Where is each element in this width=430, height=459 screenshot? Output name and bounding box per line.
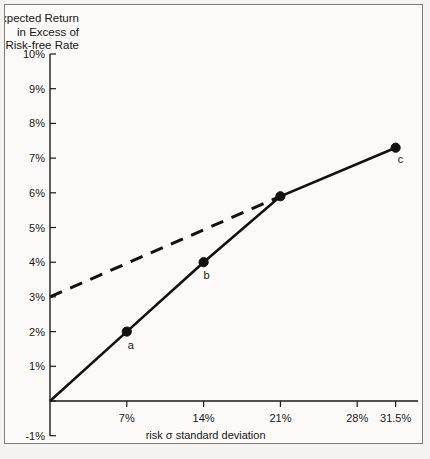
x-axis-tick-label: 21% bbox=[269, 412, 291, 424]
x-axis-tick-label: 14% bbox=[193, 412, 215, 424]
data-point-marker bbox=[122, 327, 131, 336]
y-axis-tick-label: 8% bbox=[29, 117, 45, 129]
data-series bbox=[50, 148, 396, 401]
data-point-label: c bbox=[398, 153, 404, 165]
chart-title-line: in Excess of bbox=[17, 26, 80, 38]
figure-root: Expected Returnin Excess ofRisk-free Rat… bbox=[0, 0, 430, 459]
y-axis-tick-label: 7% bbox=[29, 152, 45, 164]
x-axis: 7%14%21%28%31.5% bbox=[50, 401, 418, 424]
x-axis-title: risk σ standard deviation bbox=[146, 429, 266, 441]
x-axis-tick-label: 7% bbox=[119, 412, 135, 424]
y-axis-tick-label: 6% bbox=[29, 187, 45, 199]
chart-canvas: Expected Returnin Excess ofRisk-free Rat… bbox=[5, 5, 424, 445]
data-point-marker bbox=[276, 192, 285, 201]
y-axis-tick-label: 9% bbox=[29, 83, 45, 95]
x-axis-title-text: risk σ standard deviation bbox=[146, 429, 266, 441]
data-point-marker bbox=[199, 258, 208, 267]
data-point-marker bbox=[391, 143, 400, 152]
y-axis-tick-label: 2% bbox=[29, 326, 45, 338]
y-axis-tick-label: -1% bbox=[25, 430, 45, 442]
y-axis-tick-label: 5% bbox=[29, 222, 45, 234]
x-axis-tick-label: 28% bbox=[346, 412, 368, 424]
capital-allocation-dashed bbox=[50, 196, 280, 297]
y-axis: -1%1%2%3%4%5%6%7%8%9%10% bbox=[23, 48, 56, 442]
y-axis-tick-label: 4% bbox=[29, 256, 45, 268]
y-axis-tick-label: 10% bbox=[23, 48, 45, 60]
data-point-label: a bbox=[128, 339, 135, 351]
figure-frame: Expected Returnin Excess ofRisk-free Rat… bbox=[4, 4, 423, 444]
x-axis-tick-label: 31.5% bbox=[380, 412, 411, 424]
y-axis-tick-label: 1% bbox=[29, 360, 45, 372]
chart-title-line: Expected Return bbox=[5, 12, 79, 24]
chart-title: Expected Returnin Excess ofRisk-free Rat… bbox=[5, 12, 80, 51]
data-point-label: b bbox=[204, 269, 210, 281]
y-axis-tick-label: 3% bbox=[29, 291, 45, 303]
data-points: abc bbox=[122, 143, 404, 351]
